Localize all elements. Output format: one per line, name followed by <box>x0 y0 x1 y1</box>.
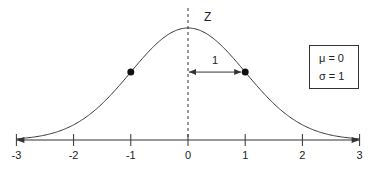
x-tick-label: -3 <box>12 149 22 161</box>
inflection-point-dot <box>127 69 134 76</box>
one-sd-arrow <box>189 69 241 75</box>
mu-label: μ = 0 <box>319 52 344 64</box>
x-axis: -3-2-10123 <box>12 134 363 161</box>
x-tick-label: 0 <box>185 149 191 161</box>
x-tick-label: -1 <box>126 149 136 161</box>
inflection-point-dot <box>242 69 249 76</box>
x-tick-label: 2 <box>299 149 305 161</box>
distance-label: 1 <box>212 54 218 66</box>
x-tick-label: 3 <box>357 149 363 161</box>
sigma-label: σ = 1 <box>319 70 344 82</box>
parameter-legend: μ = 0 σ = 1 <box>309 45 359 89</box>
x-tick-label: 1 <box>242 149 248 161</box>
z-label: Z <box>204 10 211 24</box>
x-tick-label: -2 <box>69 149 79 161</box>
